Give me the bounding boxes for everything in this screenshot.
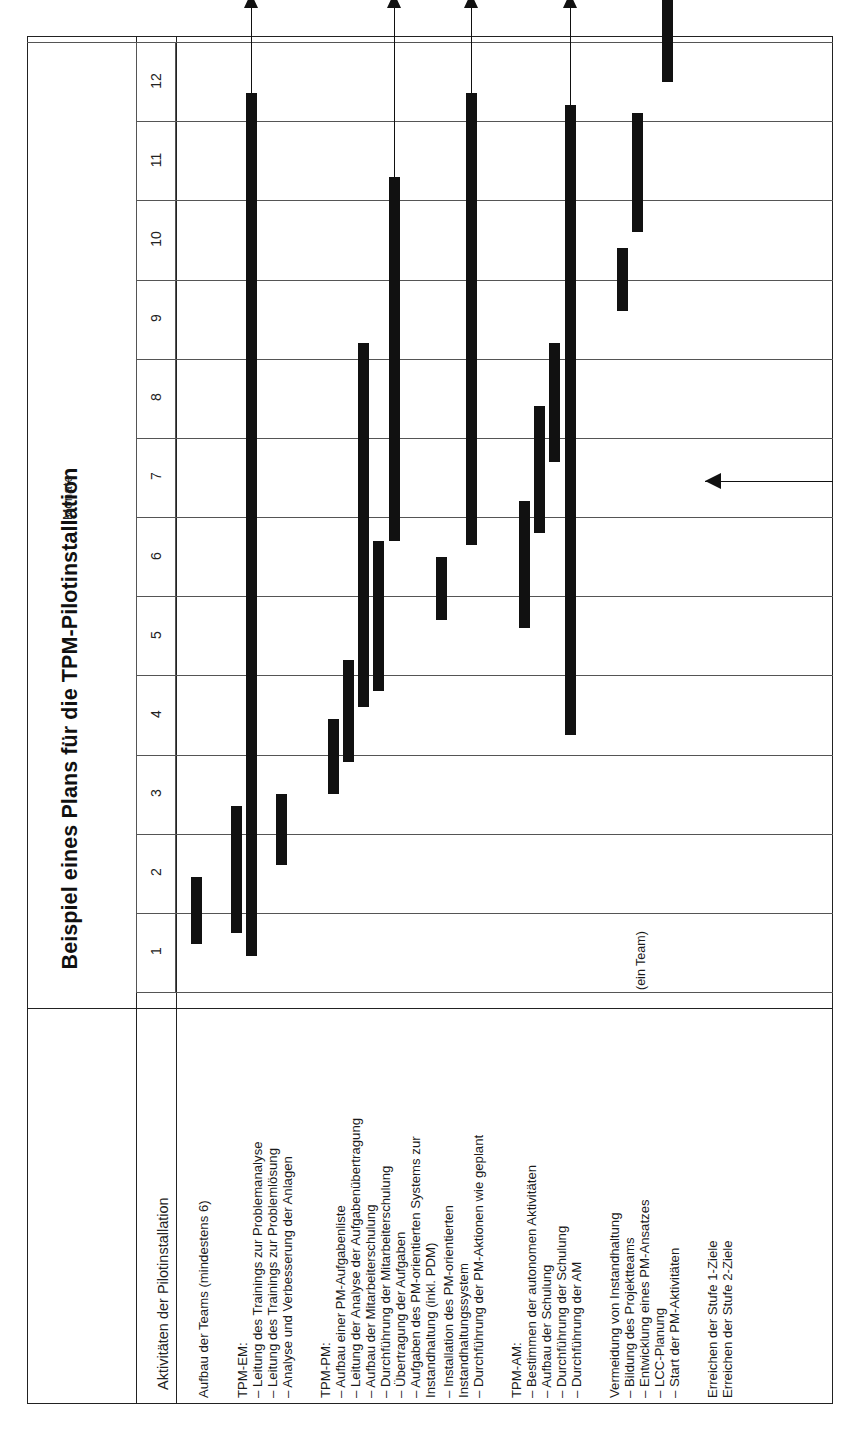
page-title: Beispiel eines Plans für die TPM-Pilotin… <box>58 349 83 1089</box>
gantt-bar-row-10 <box>436 557 447 620</box>
activity-label-26: Erreichen der Stufe 1-Ziele <box>705 1240 720 1398</box>
gantt-bar-row-8-arrow-line <box>394 8 395 177</box>
activity-label-27: Erreichen der Stufe 2-Ziele <box>720 1240 735 1398</box>
annotation-ein-team: (ein Team) <box>634 931 648 990</box>
gantt-bar-row-11 <box>466 93 477 544</box>
month-label-4: 4 <box>136 706 176 722</box>
activity-label-6: – Aufbau einer PM-Aufgabenliste <box>333 1205 348 1398</box>
gridline-month-5 <box>176 596 833 597</box>
tick-month-12 <box>136 42 176 43</box>
gridline-month-3 <box>176 755 833 756</box>
activity-label-21: Vermeidung von Instandhaltung <box>607 1213 622 1399</box>
activity-label-3: – Leitung des Trainings zur Problemlösun… <box>265 1148 280 1398</box>
tick-month-7 <box>136 438 176 439</box>
gantt-bar-row-7 <box>373 541 384 691</box>
gantt-bar-row-13 <box>534 406 545 533</box>
month-label-text: 6 <box>148 552 164 560</box>
gantt-bar-row-11-arrow-head <box>464 0 478 8</box>
gantt-bar-row-4 <box>328 719 339 794</box>
tick-month-8 <box>136 359 176 360</box>
month-label-text: 12 <box>148 73 164 89</box>
gridline-month-1 <box>176 913 833 914</box>
gantt-page: Beispiel eines Plans für die TPM-Pilotin… <box>0 0 860 1436</box>
activity-label-16: TPM-AM: <box>509 1342 524 1398</box>
month-label-1: 1 <box>136 943 176 959</box>
tick-month-11 <box>136 121 176 122</box>
activity-label-17: – Bestimmen der autonomen Aktivitäten <box>524 1165 539 1398</box>
activity-label-18: – Aufbau der Schulung <box>539 1265 554 1398</box>
month-label-text: 10 <box>148 231 164 247</box>
month-label-2: 2 <box>136 864 176 880</box>
gantt-bar-row-3 <box>276 794 287 865</box>
tick-month-0 <box>136 992 176 993</box>
gantt-bar-row-2-arrow-line <box>251 8 252 94</box>
gantt-bar-row-5 <box>343 660 354 763</box>
gantt-bar-row-8-arrow-head <box>387 0 401 8</box>
gantt-bar-row-15 <box>565 105 576 734</box>
gantt-milestone-row-20-line <box>705 481 833 482</box>
month-label-text: 9 <box>148 314 164 322</box>
gridline-month-0 <box>176 992 833 993</box>
activity-label-15: – Durchführung der PM-Aktionen wie gepla… <box>471 1135 486 1398</box>
gantt-bar-row-2-arrow-head <box>244 0 258 8</box>
gantt-bar-row-19 <box>662 0 673 82</box>
gridline-month-12 <box>176 42 833 43</box>
gantt-bar-row-12 <box>519 501 530 628</box>
month-label-text: 4 <box>148 710 164 718</box>
activity-label-9: – Durchführung der Mitarbeiterschulung <box>378 1166 393 1398</box>
month-label-7: 7 <box>136 468 176 484</box>
tick-month-6 <box>136 517 176 518</box>
activity-label-11: – Aufgaben des PM-orientierten Systems z… <box>408 1136 423 1398</box>
activity-label-10: – Übertragung der Aufgaben <box>393 1232 408 1398</box>
gridline-month-9 <box>176 280 833 281</box>
gridline-month-10 <box>176 200 833 201</box>
gantt-bar-row-8 <box>389 177 400 541</box>
month-label-6: 6 <box>136 548 176 564</box>
month-label-text: 8 <box>148 393 164 401</box>
activity-label-20: – Durchführung der AM <box>569 1262 584 1398</box>
gantt-milestone-row-20-head <box>705 473 721 489</box>
activity-label-19: – Durchführung der Schulung <box>554 1226 569 1398</box>
activity-label-5: TPM-PM: <box>318 1342 333 1398</box>
activity-label-4: – Analyse und Verbesserung der Anlagen <box>280 1156 295 1398</box>
divider-header-body <box>27 1008 833 1009</box>
gantt-bar-row-17 <box>632 113 643 232</box>
gantt-bar-row-14 <box>549 343 560 462</box>
activity-label-14: Instandhaltungssystem <box>456 1263 471 1398</box>
tick-month-4 <box>136 675 176 676</box>
activity-label-12: Instandhaltung (inkl. PDM) <box>423 1243 438 1398</box>
time-axis-caption: Monate <box>60 475 75 520</box>
month-label-text: 7 <box>148 473 164 481</box>
gantt-plot <box>176 42 833 992</box>
tick-month-5 <box>136 596 176 597</box>
activity-label-23: – Entwicklung eines PM-Ansatzes <box>637 1199 652 1398</box>
activities-column-header: Aktivitäten der Pilotinstallation <box>155 1197 171 1390</box>
month-label-text: 5 <box>148 631 164 639</box>
month-label-text: 3 <box>148 789 164 797</box>
month-label-11: 11 <box>136 152 176 168</box>
activity-label-24: – LCC-Planung <box>652 1308 667 1398</box>
tick-month-10 <box>136 200 176 201</box>
tick-month-1 <box>136 913 176 914</box>
activity-label-1: TPM-EM: <box>235 1342 250 1398</box>
activity-label-7: – Leitung der Analyse der Aufgabenübertr… <box>348 1118 363 1398</box>
activity-label-0: Aufbau der Teams (mindestens 6) <box>196 1200 211 1398</box>
gridline-month-8 <box>176 359 833 360</box>
gantt-bar-row-16 <box>617 248 628 311</box>
tick-month-9 <box>136 280 176 281</box>
month-label-text: 1 <box>148 948 164 956</box>
gantt-bar-row-2 <box>246 93 257 956</box>
month-label-text: 11 <box>148 152 164 167</box>
tick-month-2 <box>136 834 176 835</box>
gridline-month-11 <box>176 121 833 122</box>
gantt-bar-row-0 <box>191 877 202 944</box>
activity-label-22: – Bildung des Projektteams <box>622 1237 637 1398</box>
month-label-3: 3 <box>136 785 176 801</box>
month-label-12: 12 <box>136 73 176 89</box>
gridline-month-6 <box>176 517 833 518</box>
gantt-bar-row-6 <box>358 343 369 707</box>
month-label-9: 9 <box>136 310 176 326</box>
activity-label-8: – Aufbau der Mitarbeiterschulung <box>363 1204 378 1398</box>
gridline-month-4 <box>176 675 833 676</box>
tick-month-3 <box>136 755 176 756</box>
